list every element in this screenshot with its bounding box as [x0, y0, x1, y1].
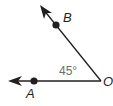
angle-diagram: B A O 45° [0, 0, 113, 106]
label-a: A [25, 86, 35, 101]
point-b [52, 21, 59, 28]
label-o: O [103, 74, 113, 89]
ray-oa [8, 76, 101, 86]
point-a [30, 77, 37, 84]
angle-measure: 45° [59, 64, 77, 78]
label-b: B [63, 10, 72, 25]
arrowhead-icon [40, 5, 52, 19]
